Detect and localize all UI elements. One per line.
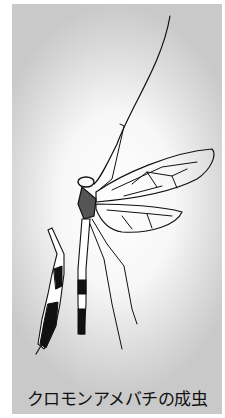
wasp-illustration [12, 4, 222, 374]
figure-caption: クロモンアメバチの成虫 [12, 380, 222, 414]
figure-panel: クロモンアメバチの成虫 [12, 4, 222, 414]
